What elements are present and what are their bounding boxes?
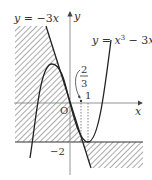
label-cubic: y = x3 − 3x [91,34,152,47]
label-x-axis: x [135,105,142,118]
function-graph-figure: y = −3x y y = x3 − 3x 2 3 1 O x −2 [0,0,152,180]
pointer-arrow [76,70,81,98]
label-y-axis: y [73,10,81,23]
label-origin: O [60,105,68,116]
label-line: y = −3x [13,12,60,25]
label-x-one: 1 [85,90,91,101]
label-frac-numerator: 2 [81,64,87,75]
label-frac-denominator: 3 [81,78,87,89]
label-y-neg2: −2 [50,146,65,157]
graph-canvas: y = −3x y y = x3 − 3x 2 3 1 O x −2 [0,0,152,180]
point-two-thirds [80,100,82,102]
shaded-region-lower-right [83,142,143,168]
shaded-region-upper-left [15,26,83,142]
